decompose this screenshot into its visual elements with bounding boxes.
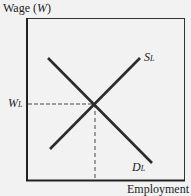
labor-market-diagram: Wage (W) SL DL WL Employment <box>0 0 191 196</box>
supply-subscript: L <box>150 54 154 63</box>
demand-curve <box>48 58 152 163</box>
wage-letter: W <box>8 96 18 110</box>
demand-subscript: L <box>141 164 145 173</box>
x-axis-title: Employment <box>127 182 189 196</box>
diagram-canvas <box>0 0 191 196</box>
demand-letter: D <box>132 160 141 174</box>
y-axis-label: Wage <box>3 1 30 15</box>
equilibrium-wage-label: WL <box>8 96 22 111</box>
demand-label: DL <box>132 160 145 175</box>
y-axis-title: Wage (W) <box>3 1 51 16</box>
supply-label: SL <box>144 50 154 65</box>
plot-frame <box>28 19 185 181</box>
y-axis-variable: W <box>37 1 47 15</box>
wage-subscript: L <box>18 100 22 109</box>
